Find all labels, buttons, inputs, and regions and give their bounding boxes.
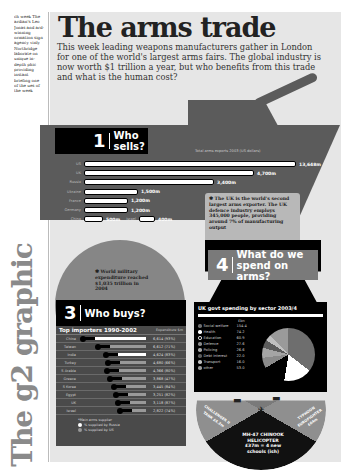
importer-country: Taiwan — [56, 345, 78, 349]
seller-bar-row: Russia3,400m — [60, 178, 236, 186]
uk-spending-title: UK govt spending by sector 2003/4 — [198, 305, 323, 311]
seller-bar-row-israel: Israel400m — [115, 215, 172, 223]
uk-exporter-note: ✱ The UK is the world's second largest a… — [205, 193, 300, 245]
seller-bar — [84, 170, 254, 176]
arrow-icon — [110, 377, 122, 380]
seller-country: France — [60, 199, 84, 203]
g2-graphic-label: The g2 graphic — [2, 250, 42, 460]
arrow-icon — [120, 409, 132, 412]
supplier-share-bar — [124, 385, 146, 388]
uk-spending-pie-chart — [262, 328, 315, 381]
seller-value: 3,400m — [217, 180, 236, 185]
seller-bar — [84, 207, 128, 213]
divider — [198, 314, 323, 317]
supplier-share-bar — [130, 409, 146, 412]
arrow-icon — [116, 393, 128, 396]
seller-value: 1,200m — [131, 198, 150, 203]
importer-value: 4,680 (66%) — [153, 361, 175, 365]
supplier-share-bar — [116, 353, 146, 356]
legend-swatch — [198, 354, 202, 358]
section-number: 3 — [64, 305, 81, 321]
seller-bar-row: France1,200m — [60, 197, 150, 205]
arrow-icon — [83, 337, 95, 340]
legend-swatch — [78, 428, 82, 432]
seller-value: 1,500m — [141, 189, 160, 194]
legend-swatch — [198, 330, 202, 334]
helicopter-icon: ✈ — [258, 405, 265, 414]
importer-country: Egypt — [56, 393, 78, 397]
intro-text: This week leading weapons manufacturers … — [57, 42, 327, 82]
importers-column-header: Expenditure $m — [156, 328, 183, 332]
importer-value: 3,445 (84%) — [153, 385, 175, 389]
seller-country: Russia — [60, 180, 84, 184]
seller-value: 13,648m — [299, 162, 321, 167]
importer-row: Israel 2,822 (74%) — [56, 407, 186, 415]
section-1-header: 1 Who sells? — [55, 128, 148, 154]
seller-bar-row: Ukraine1,500m — [60, 188, 160, 196]
column-divider — [48, 12, 49, 462]
supplier-share-bar — [128, 401, 146, 404]
importers-rows: China 6,614 (93%)Taiwan 6,612 (71%)India… — [56, 335, 186, 415]
seller-bar-row: US13,648m — [60, 160, 321, 168]
section-title: What do we spend on arms? — [237, 249, 318, 282]
legend-swatch — [198, 366, 202, 370]
importer-country: S Arabia — [56, 369, 78, 373]
wheel-center-text: MH-47 CHINOOK HELICOPTER £37m = 4 new sc… — [240, 432, 286, 454]
supplier-share-bar — [108, 345, 146, 348]
section-number: 1 — [93, 133, 110, 149]
importers-table: Top importers 1990-2002 Expenditure $m C… — [56, 326, 186, 446]
seller-value: 1,200m — [131, 208, 150, 213]
page-title: The arms trade — [58, 12, 275, 43]
supplier-share-bar — [117, 369, 146, 372]
importer-country: Turkey — [56, 361, 78, 365]
importer-country: China — [56, 337, 78, 341]
section-number: 4 — [216, 257, 233, 273]
tank-icon: ▬ — [233, 395, 242, 405]
legend-item-us: % supplied by US — [78, 428, 186, 433]
seller-country: Germany — [60, 208, 84, 212]
seller-country: Ukraine — [60, 190, 84, 194]
arrow-icon — [114, 385, 126, 388]
importer-value: 3,251 (82%) — [153, 393, 175, 397]
seller-bar-row: China500m — [60, 215, 120, 223]
sidebar-blurb: ch week The ardian's Leo Jonas and ard-w… — [14, 14, 44, 94]
importer-value: 4,624 (83%) — [153, 353, 175, 357]
infographic-page: ch week The ardian's Leo Jonas and ard-w… — [0, 0, 349, 472]
section-3-header: 3 Who buys? — [56, 300, 186, 326]
importer-value: 6,612 (71%) — [153, 345, 175, 349]
section-title: Who buys? — [85, 308, 146, 319]
seller-bar — [84, 189, 138, 195]
legend-swatch — [198, 342, 202, 346]
importer-country: Israel — [56, 409, 78, 413]
importer-country: UK — [56, 401, 78, 405]
arrow-icon — [107, 369, 119, 372]
legend-swatch — [198, 324, 202, 328]
arrow-icon — [108, 361, 120, 364]
importers-legend: *Main arms supplier % supplied by Russia… — [56, 415, 186, 433]
legend-swatch — [198, 360, 202, 364]
seller-bar-row: UK4,700m — [60, 169, 276, 177]
importers-table-title: Top importers 1990-2002 — [59, 327, 137, 333]
seller-bar-row: Germany1,200m — [60, 206, 150, 214]
seller-country: UK — [60, 171, 84, 175]
legend-swatch — [198, 336, 202, 340]
importer-country: India — [56, 353, 78, 357]
seller-country: China — [60, 217, 84, 221]
legend-swatch — [78, 423, 82, 427]
jet-icon: ▬ — [272, 393, 281, 403]
section-title: Who sells? — [114, 130, 148, 152]
importer-value: 3,118 (87%) — [153, 401, 175, 405]
world-expenditure-note: ✱ World military expenditure reached $1,… — [95, 269, 150, 292]
importer-country: Greece — [56, 377, 78, 381]
importer-value: 2,822 (74%) — [153, 409, 175, 413]
seller-bar — [84, 198, 128, 204]
seller-country: US — [60, 162, 84, 166]
arrow-icon — [118, 401, 130, 404]
seller-bar — [84, 179, 214, 185]
seller-bar — [84, 216, 103, 222]
seller-bar — [84, 161, 296, 167]
importer-country: S Korea — [56, 385, 78, 389]
importer-value: 4,366 (80%) — [153, 369, 175, 373]
seller-value: 4,700m — [257, 171, 276, 176]
sellers-chart-note: Total arms exports 2003 (US dollars) — [195, 149, 261, 153]
